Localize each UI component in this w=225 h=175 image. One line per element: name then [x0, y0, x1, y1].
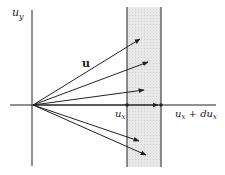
- shaded-strip: [127, 7, 161, 167]
- y-axis-label: uy: [12, 6, 24, 21]
- ux-label: ux: [115, 108, 125, 121]
- ux-dux-label: ux + dux: [175, 108, 217, 121]
- point-ux-dux: [159, 103, 163, 107]
- velocity-space-diagram: uy u ux ux + dux: [0, 0, 225, 175]
- arrow-5: [33, 105, 139, 141]
- vector-label: u: [82, 57, 90, 70]
- arrow-1: [33, 39, 140, 105]
